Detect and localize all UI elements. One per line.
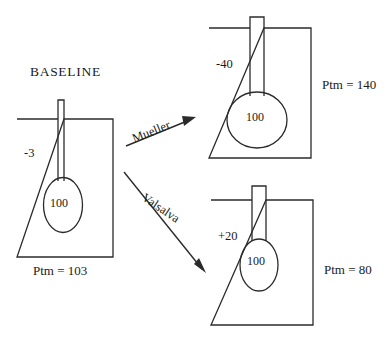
valsalva-transmural-pressure: Ptm = 80 xyxy=(324,262,372,278)
mueller-alveolar-pressure: 100 xyxy=(246,110,264,125)
valsalva-alveolar-pressure: 100 xyxy=(247,254,265,269)
baseline-title: BASELINE xyxy=(30,64,101,80)
mueller-transmural-pressure: Ptm = 140 xyxy=(322,77,376,93)
mueller-chest-wall xyxy=(209,28,311,158)
valsalva-pleural-pressure: +20 xyxy=(218,229,238,244)
baseline-transmural-pressure: Ptm = 103 xyxy=(33,263,87,279)
baseline-pleural-pressure: -3 xyxy=(24,146,34,161)
baseline-chest-wall xyxy=(17,119,113,257)
baseline-airway-tube xyxy=(58,100,64,181)
valsalva-airway-tube xyxy=(252,186,266,241)
valsalva-arrow xyxy=(124,172,202,269)
diagram-vector-layer xyxy=(0,0,387,350)
baseline-alveolar-pressure: 100 xyxy=(50,196,68,211)
mueller-pleural-pressure: -40 xyxy=(216,57,233,72)
diagram-canvas: BASELINE -3 -40 +20 100 100 100 Ptm = 10… xyxy=(0,0,387,350)
mueller-arrowhead xyxy=(182,116,196,126)
